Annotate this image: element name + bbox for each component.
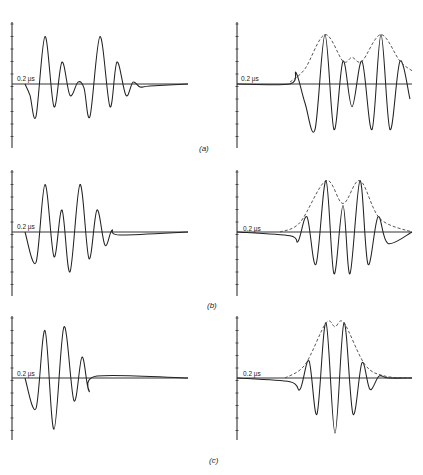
waveform-figure bbox=[0, 0, 423, 475]
time-label-b-right: 0.2 µs bbox=[243, 225, 261, 232]
panel-label-a: (a) bbox=[199, 144, 209, 153]
time-label-a-left: 0.2 µs bbox=[17, 75, 35, 82]
panel-label-c: (c) bbox=[209, 456, 218, 465]
signal-trace bbox=[237, 181, 412, 274]
signal-trace bbox=[25, 184, 188, 272]
time-label-b-left: 0.2 µs bbox=[17, 223, 35, 230]
envelope-dashed-line bbox=[280, 180, 412, 232]
time-label-c-left: 0.2 µs bbox=[17, 370, 35, 377]
envelope-dashed-line bbox=[290, 35, 412, 83]
time-label-c-right: 0.2 µs bbox=[243, 370, 261, 377]
panel-label-b: (b) bbox=[207, 301, 217, 310]
signal-trace bbox=[25, 36, 188, 118]
time-label-a-right: 0.2 µs bbox=[241, 75, 259, 82]
signal-trace bbox=[237, 35, 410, 133]
